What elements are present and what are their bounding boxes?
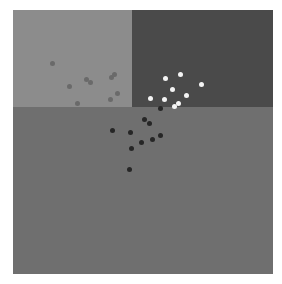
- black-dot-dot-icon: [127, 167, 132, 172]
- top-right-dark-panel: [132, 10, 273, 107]
- bottom-mid-panel: [13, 107, 273, 274]
- black-dot-dot-icon: [147, 121, 152, 126]
- grey-dot-dot-icon: [88, 80, 93, 85]
- white-dot-dot-icon: [199, 82, 204, 87]
- black-dot-dot-icon: [158, 106, 163, 111]
- black-dot-dot-icon: [139, 140, 144, 145]
- white-dot-dot-icon: [172, 104, 177, 109]
- black-dot-dot-icon: [150, 137, 155, 142]
- black-dot-dot-icon: [142, 117, 147, 122]
- grey-dot-dot-icon: [108, 97, 113, 102]
- black-dot-dot-icon: [158, 133, 163, 138]
- grey-dot-dot-icon: [115, 91, 120, 96]
- black-dot-dot-icon: [128, 130, 133, 135]
- grey-dot-dot-icon: [50, 61, 55, 66]
- white-dot-dot-icon: [178, 72, 183, 77]
- grey-dot-dot-icon: [112, 72, 117, 77]
- grey-dot-dot-icon: [67, 84, 72, 89]
- white-dot-dot-icon: [184, 93, 189, 98]
- grey-dot-dot-icon: [75, 101, 80, 106]
- white-dot-dot-icon: [148, 96, 153, 101]
- white-dot-dot-icon: [170, 87, 175, 92]
- black-dot-dot-icon: [129, 146, 134, 151]
- white-dot-dot-icon: [163, 76, 168, 81]
- black-dot-dot-icon: [110, 128, 115, 133]
- white-dot-dot-icon: [162, 97, 167, 102]
